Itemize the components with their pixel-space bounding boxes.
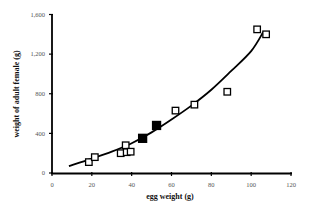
open-square-marker bbox=[92, 154, 99, 161]
trend-line bbox=[69, 32, 263, 166]
y-tick-label: 400 bbox=[35, 130, 45, 137]
x-tick-label: 40 bbox=[128, 181, 135, 188]
x-tick-label: 20 bbox=[89, 181, 96, 188]
trend-curve bbox=[69, 32, 263, 166]
y-tick-label: 0 bbox=[42, 169, 45, 176]
x-tick-label: 0 bbox=[50, 181, 53, 188]
x-axis-title: egg weight (g) bbox=[146, 192, 194, 201]
y-axis-ticks: 04008001,2001,600 bbox=[30, 11, 53, 177]
open-square-marker bbox=[122, 142, 129, 149]
y-tick-label: 800 bbox=[35, 90, 45, 97]
x-tick-label: 100 bbox=[246, 181, 256, 188]
axes bbox=[51, 14, 292, 174]
y-axis-title: weight of adult female (g) bbox=[12, 50, 21, 137]
open-square-marker bbox=[191, 101, 198, 108]
y-tick-label: 1,200 bbox=[30, 50, 45, 57]
filled-square-marker bbox=[139, 134, 147, 142]
x-tick-label: 80 bbox=[208, 181, 215, 188]
open-square-marker bbox=[263, 31, 270, 38]
filled-square-marker bbox=[153, 121, 161, 129]
y-tick-label: 1,600 bbox=[30, 11, 45, 18]
open-square-marker bbox=[127, 148, 134, 155]
x-tick-label: 120 bbox=[286, 181, 296, 188]
scatter-chart: 020406080100120 04008001,2001,600 egg we… bbox=[0, 0, 309, 218]
open-square-marker bbox=[224, 89, 231, 96]
data-markers bbox=[86, 26, 270, 165]
x-tick-label: 60 bbox=[168, 181, 175, 188]
open-square-marker bbox=[172, 107, 179, 114]
open-square-marker bbox=[254, 26, 261, 33]
